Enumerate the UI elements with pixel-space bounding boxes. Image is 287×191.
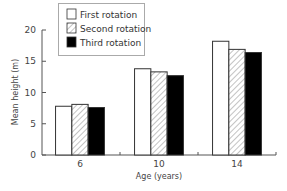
- legend-swatch-hatched: [67, 23, 76, 33]
- y-tick-label: 15: [25, 56, 36, 66]
- bar-second-rotation-10: [151, 72, 167, 155]
- bar-first-rotation-6: [56, 106, 72, 155]
- legend-label: Second rotation: [80, 24, 151, 34]
- y-tick-label: 0: [30, 150, 36, 160]
- x-tick-label: 6: [77, 159, 83, 169]
- legend: First rotationSecond rotationThird rotat…: [59, 4, 152, 56]
- legend-swatch-white: [67, 9, 76, 19]
- bar-second-rotation-6: [72, 104, 88, 155]
- bar-third-rotation-10: [167, 76, 183, 155]
- bar-third-rotation-14: [245, 53, 261, 156]
- x-axis-label: Age (years): [136, 172, 182, 181]
- y-axis-label: Mean height (m): [11, 59, 20, 125]
- legend-swatch-black: [67, 37, 76, 47]
- legend-label: First rotation: [80, 10, 137, 20]
- y-tick-label: 20: [25, 25, 37, 35]
- y-tick-label: 5: [30, 119, 36, 129]
- x-tick-label: 14: [231, 159, 243, 169]
- x-tick-label: 10: [153, 159, 165, 169]
- y-axis: 05101520: [25, 25, 46, 160]
- bar-third-rotation-6: [88, 108, 104, 156]
- legend-label: Third rotation: [79, 38, 141, 48]
- bar-first-rotation-10: [135, 69, 151, 155]
- y-tick-label: 10: [25, 88, 37, 98]
- bar-second-rotation-14: [229, 49, 245, 155]
- bars: [56, 41, 262, 155]
- bar-first-rotation-14: [213, 41, 229, 155]
- bar-chart: 05101520 61014 First rotationSecond rota…: [0, 0, 287, 191]
